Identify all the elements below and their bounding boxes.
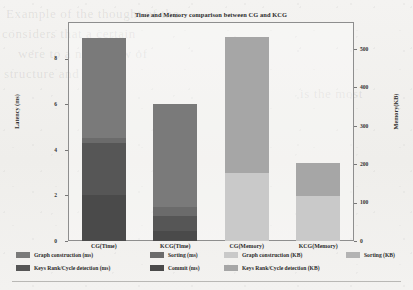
chart-figure: Time and Memory comparison between CG an… xyxy=(0,0,413,290)
y-axis-right-label: Memory(KB) xyxy=(392,79,399,145)
bar-kcgtime[interactable] xyxy=(153,22,197,241)
y-tick-label-left-6: 6 xyxy=(33,101,57,107)
legend-item[interactable]: Sorting (KB) xyxy=(346,252,395,258)
y-axis-left-label: Latency (ms) xyxy=(13,80,20,144)
bar-segment xyxy=(225,173,269,241)
y-tick-label-right-200: 200 xyxy=(360,161,384,167)
y-tick-mark-right-500 xyxy=(354,49,357,50)
x-axis-label-3: KCG(Memory) xyxy=(283,243,355,249)
y-tick-label-right-400: 400 xyxy=(360,84,384,90)
x-axis-label-1: KCG(Time) xyxy=(140,243,212,249)
legend-item[interactable]: Commit (ms) xyxy=(150,265,200,271)
legend-label: Keys Rank/Cycle detection (ms) xyxy=(34,265,110,271)
y-tick-mark-left-6 xyxy=(65,104,68,105)
y-tick-label-right-300: 300 xyxy=(360,123,384,129)
legend-swatch-icon xyxy=(224,265,238,271)
y-tick-mark-right-300 xyxy=(354,126,357,127)
bar-segment xyxy=(82,138,126,143)
y-tick-label-left-8: 8 xyxy=(33,55,57,61)
y-tick-mark-right-0 xyxy=(354,241,357,242)
bar-segment xyxy=(153,207,197,217)
legend-swatch-icon xyxy=(346,252,360,258)
bar-segment xyxy=(82,38,126,138)
y-tick-mark-left-2 xyxy=(65,195,68,196)
y-tick-label-left-4: 4 xyxy=(33,147,57,153)
x-axis-label-0: CG(Time) xyxy=(68,243,140,249)
legend-swatch-icon xyxy=(16,265,30,271)
bar-segment xyxy=(82,195,126,241)
legend-swatch-icon xyxy=(150,265,164,271)
legend-swatch-icon xyxy=(16,252,30,258)
bar-segment xyxy=(225,37,269,173)
y-tick-mark-right-200 xyxy=(354,164,357,165)
bar-cgmemory[interactable] xyxy=(225,22,269,241)
bar-kcgmemory[interactable] xyxy=(296,22,340,241)
legend-swatch-icon xyxy=(150,252,164,258)
y-tick-mark-right-100 xyxy=(354,203,357,204)
bar-segment xyxy=(82,143,126,195)
legend-label: Keys Rank/Cycle detection (KB) xyxy=(242,265,320,271)
legend-label: Sorting (ms) xyxy=(168,252,198,258)
chart-title: Time and Memory comparison between CG an… xyxy=(68,11,354,18)
y-tick-mark-left-8 xyxy=(65,59,68,60)
y-tick-mark-left-4 xyxy=(65,150,68,151)
y-tick-mark-right-400 xyxy=(354,87,357,88)
bar-segment xyxy=(296,196,340,241)
bar-segment xyxy=(153,104,197,207)
y-tick-label-right-0: 0 xyxy=(360,238,384,244)
x-axis-label-2: CG(Memory) xyxy=(211,243,283,249)
y-tick-label-left-0: 0 xyxy=(33,238,57,244)
legend-item[interactable]: Keys Rank/Cycle detection (ms) xyxy=(16,265,110,271)
bar-segment xyxy=(153,231,197,241)
legend-label: Graph construction (KB) xyxy=(242,252,302,258)
legend-item[interactable]: Sorting (ms) xyxy=(150,252,198,258)
legend-label: Sorting (KB) xyxy=(364,252,395,258)
bar-segment xyxy=(153,216,197,230)
y-tick-label-left-2: 2 xyxy=(33,192,57,198)
legend-item[interactable]: Graph construction (KB) xyxy=(224,252,302,258)
legend-item[interactable]: Keys Rank/Cycle detection (KB) xyxy=(224,265,320,271)
chart-legend: Graph construction (ms)Sorting (ms)Graph… xyxy=(16,252,401,278)
y-tick-mark-left-0 xyxy=(65,241,68,242)
legend-label: Graph construction (ms) xyxy=(34,252,93,258)
legend-label: Commit (ms) xyxy=(168,265,200,271)
y-tick-label-right-500: 500 xyxy=(360,46,384,52)
bar-cgtime[interactable] xyxy=(82,22,126,241)
legend-item[interactable]: Graph construction (ms) xyxy=(16,252,93,258)
y-tick-label-right-100: 100 xyxy=(360,199,384,205)
bar-segment xyxy=(296,163,340,195)
page-rule xyxy=(12,281,401,282)
legend-swatch-icon xyxy=(224,252,238,258)
